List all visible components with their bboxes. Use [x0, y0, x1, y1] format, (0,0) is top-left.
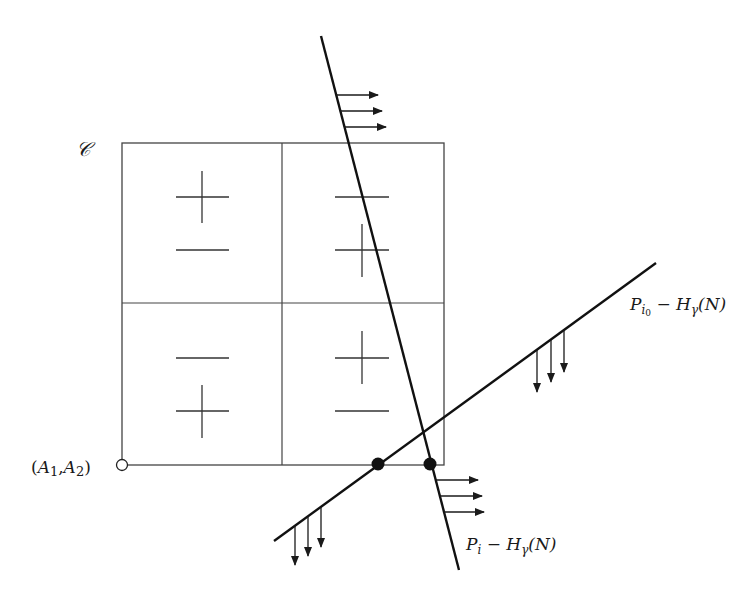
region-label: 𝒞 — [76, 137, 96, 161]
diagram-canvas: 𝒞 (A1,A2) Pi0 − Hγ(N) Pi − Hγ(N) — [0, 0, 750, 600]
origin-label: (A1,A2) — [31, 457, 91, 479]
shallow-line-label: Pi0 − Hγ(N) — [629, 294, 726, 318]
region-box — [122, 143, 444, 465]
cell-top-left-signs — [176, 171, 229, 250]
steep-line-label: Pi − Hγ(N) — [465, 534, 557, 557]
intersection-point-1 — [372, 458, 385, 471]
constraint-line-shallow — [274, 263, 656, 541]
cell-bottom-left-signs — [176, 358, 229, 438]
cell-bottom-right-signs — [335, 331, 389, 411]
origin-marker — [117, 460, 128, 471]
intersection-point-2 — [424, 458, 437, 471]
